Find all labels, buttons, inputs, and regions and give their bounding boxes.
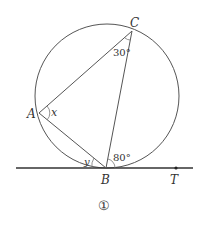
angle-arc-x bbox=[47, 106, 50, 120]
angle-label-x: x bbox=[51, 106, 58, 119]
point-t-dot bbox=[174, 166, 177, 169]
circle bbox=[35, 24, 179, 168]
label-t: T bbox=[170, 173, 179, 187]
angle-label-30: 30° bbox=[113, 47, 131, 58]
circle-geometry-diagram: C A B T x y 30° 80° ① bbox=[0, 0, 205, 228]
chord-ac bbox=[39, 31, 132, 113]
angle-label-y: y bbox=[83, 156, 90, 167]
label-c: C bbox=[130, 16, 139, 30]
label-a: A bbox=[26, 107, 36, 121]
figure-number: ① bbox=[98, 198, 110, 213]
label-b: B bbox=[100, 173, 110, 187]
angle-label-80: 80° bbox=[113, 152, 131, 163]
angle-arc-c bbox=[125, 38, 130, 40]
